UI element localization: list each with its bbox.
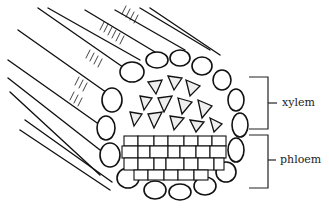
label-brackets	[249, 77, 277, 188]
strand-line	[8, 60, 100, 125]
xylem-bracket	[249, 77, 268, 129]
xylem-label: xylem	[282, 97, 315, 108]
phloem-label: phloem	[280, 154, 321, 165]
vascular-bundle-diagram: xylem phloem	[0, 0, 329, 208]
vascular-bundle-illustration	[0, 0, 329, 208]
phloem-bracket	[249, 135, 268, 188]
